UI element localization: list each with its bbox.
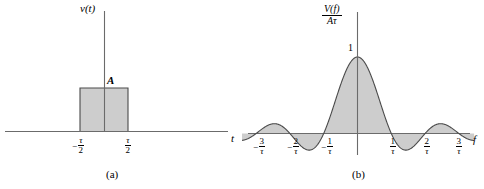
tick-denominator: 2 [78, 146, 85, 155]
tick-denominator: τ [424, 147, 431, 156]
tick-fraction: 1τ [390, 137, 397, 156]
tick-label-neg-tau-over-2: −τ2 [72, 136, 84, 155]
sinc-area-fill [242, 57, 474, 150]
tick-fraction: 2τ [293, 137, 300, 156]
tick-denominator: τ [456, 147, 463, 156]
tick-fraction: 1τ [327, 137, 334, 156]
tick-fraction: τ2 [78, 136, 85, 155]
tick-label-pos-3-over-tau: 3τ [455, 137, 462, 156]
panel-a-x-axis-label: t [231, 133, 234, 144]
panel-b-y-axis-label: V(f) Aτ [322, 4, 342, 27]
panel-a-time-domain: v(t) t A −τ2 τ2 (a) [0, 0, 242, 189]
panel-b-x-axis-label: f [473, 134, 476, 145]
panel-a-plot [0, 0, 242, 189]
panel-a-caption: (a) [106, 169, 118, 180]
tick-fraction: 3τ [456, 137, 463, 156]
tick-fraction: 2τ [424, 137, 431, 156]
tick-fraction: 3τ [259, 137, 266, 156]
tick-label-neg-1-over-tau: −1τ [321, 137, 333, 156]
tick-denominator: τ [259, 147, 266, 156]
tick-label-neg-2-over-tau: −2τ [287, 137, 299, 156]
tick-label-neg-3-over-tau: −3τ [253, 137, 265, 156]
figure-container: v(t) t A −τ2 τ2 (a) V(f) Aτ f [0, 0, 484, 189]
tick-label-pos-tau-over-2: τ2 [124, 136, 131, 155]
tick-label-pos-2-over-tau: 2τ [423, 137, 430, 156]
tick-denominator: τ [390, 147, 397, 156]
amplitude-label: A [107, 75, 114, 86]
panel-a-y-axis-label: v(t) [80, 3, 95, 14]
tick-denominator: 2 [125, 146, 132, 155]
tick-label-pos-1-over-tau: 1τ [389, 137, 396, 156]
panel-b-frequency-domain: V(f) Aτ f 1 −3τ −2τ −1τ 1τ 2τ 3τ (b) [242, 0, 484, 189]
peak-value-label: 1 [348, 43, 353, 53]
tick-denominator: τ [293, 147, 300, 156]
panel-b-caption: (b) [352, 169, 365, 180]
panel-b-plot [242, 0, 484, 189]
tick-denominator: τ [327, 147, 334, 156]
tick-fraction: τ2 [125, 136, 132, 155]
y-axis-denominator: Aτ [322, 16, 342, 27]
